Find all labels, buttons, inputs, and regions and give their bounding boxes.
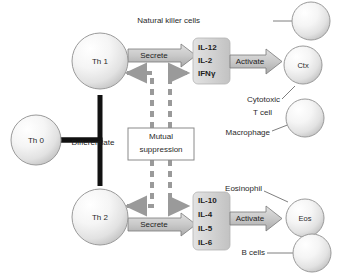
mutual-suppression-box: Mutual suppression <box>128 128 194 160</box>
activate-th2-label: Activate <box>236 214 265 223</box>
cytokine-ifng: IFNγ <box>198 69 216 78</box>
node-ctx[interactable]: Ctx <box>284 46 322 84</box>
node-b-cell[interactable] <box>293 234 331 272</box>
secrete-arrow-th2: Secrete <box>128 213 196 236</box>
label-natural-killer-cells: Natural killer cells <box>137 16 200 25</box>
node-eos[interactable]: Eos <box>286 199 324 237</box>
node-eos-label: Eos <box>299 214 312 223</box>
label-eosinophil: Eosinophil <box>225 184 262 193</box>
activate-th1-label: Activate <box>236 57 265 66</box>
label-macrophage: Macrophage <box>226 128 271 137</box>
node-natural-killer-cell[interactable] <box>292 2 330 40</box>
cytokine-il10: IL-10 <box>198 196 217 205</box>
activate-arrow-th2: Activate <box>230 206 282 231</box>
cytokine-box-th1: IL-12 IL-2 IFNγ <box>193 38 230 84</box>
cytokine-box-th2: IL-10 IL-4 IL-5 IL-6 <box>193 192 230 250</box>
node-th2-label: Th 2 <box>92 213 109 222</box>
cytokine-il5: IL-5 <box>198 224 213 233</box>
cytokine-il6: IL-6 <box>198 238 213 247</box>
secrete-th1-label: Secrete <box>140 51 168 60</box>
secrete-arrow-th1: Secrete <box>128 44 196 67</box>
activate-arrow-th1: Activate <box>230 49 282 74</box>
cytokine-il4: IL-4 <box>198 210 213 219</box>
suppression-line2: suppression <box>139 145 182 154</box>
node-th1[interactable]: Th 1 <box>72 33 128 89</box>
node-ctx-label: Ctx <box>297 61 309 70</box>
cytokine-il12: IL-12 <box>198 43 217 52</box>
node-th0[interactable]: Th 0 <box>11 115 61 165</box>
node-th2[interactable]: Th 2 <box>72 189 128 245</box>
label-cytotoxic-line1: Cytotoxic <box>247 95 280 104</box>
node-macrophage-cell[interactable] <box>286 99 324 137</box>
differentiate-label: Differentiate <box>72 138 116 147</box>
node-th1-label: Th 1 <box>92 57 109 66</box>
node-th0-label: Th 0 <box>28 136 45 145</box>
cytokine-il2: IL-2 <box>198 56 213 65</box>
label-cytotoxic-line2: T cell <box>253 108 272 117</box>
diagram-canvas: Mutual suppression Secrete Secrete IL-12… <box>0 0 338 278</box>
suppression-line1: Mutual <box>149 132 173 141</box>
secrete-th2-label: Secrete <box>140 220 168 229</box>
th1-th2-differentiation-diagram: Mutual suppression Secrete Secrete IL-12… <box>0 0 338 278</box>
label-b-cells: B cells <box>241 248 265 257</box>
